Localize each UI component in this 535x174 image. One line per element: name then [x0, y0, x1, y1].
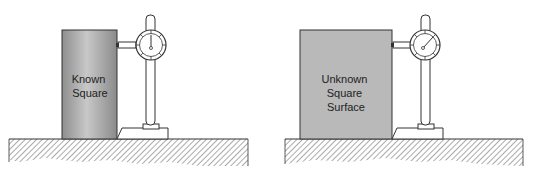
indicator-plunger-right: [393, 42, 411, 48]
indicator-base-right: [392, 128, 443, 139]
left-figure: Known Square: [9, 15, 248, 166]
unknown-square-label: Unknown Square Surface: [322, 73, 371, 113]
surface-plate-right: [285, 139, 523, 166]
right-figure: Unknown Square Surface: [285, 15, 523, 166]
surface-plate-left: [9, 139, 248, 166]
diagram-canvas: Known Square: [0, 0, 535, 174]
dial-indicator-right: [410, 30, 440, 60]
indicator-plunger-left: [118, 42, 136, 48]
indicator-base-left: [117, 128, 168, 139]
dial-indicator-left: [136, 30, 166, 60]
